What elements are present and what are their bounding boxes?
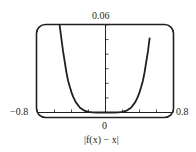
plot-area	[0, 0, 196, 152]
x-min-label: −0.8	[10, 107, 28, 117]
x-origin-label: 0	[102, 121, 107, 131]
function-curve	[60, 25, 150, 113]
y-max-label: 0.06	[92, 11, 110, 21]
x-max-label: 0.8	[176, 107, 189, 117]
chart-caption: |f(x) − x|	[84, 135, 119, 145]
